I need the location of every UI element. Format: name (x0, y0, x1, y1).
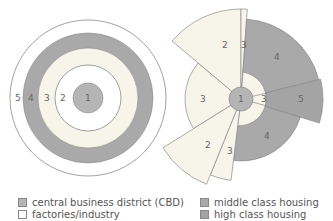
zone-1-label: 1 (85, 93, 91, 103)
sector-5-label: 5 (298, 94, 304, 104)
legend-swatch-middle-class (200, 198, 209, 207)
legend-label-high-class: high class housing (214, 209, 306, 220)
zone-5-label: 5 (15, 93, 21, 103)
zone-3-label: 3 (44, 93, 50, 103)
legend-swatch-industry (18, 210, 27, 219)
legend-label-cbd: central business district (CBD) (32, 197, 184, 208)
legend-label-industry: factories/industry (32, 209, 120, 220)
sector-1-label: 1 (238, 94, 244, 104)
legend-item-high-class: high class housing (200, 208, 306, 220)
zone-4-label: 4 (28, 93, 34, 103)
legend-item-industry: factories/industry (18, 208, 120, 220)
zone-2-label: 2 (60, 93, 66, 103)
sector-3-top-strip-label: 3 (241, 40, 247, 50)
legend-item-middle-class: middle class housing (200, 196, 319, 208)
sector-4-top-right-label: 4 (274, 52, 280, 62)
legend-item-cbd: central business district (CBD) (18, 196, 184, 208)
sector-3-left-label: 3 (200, 94, 206, 104)
sector-3-bottom-label: 3 (227, 146, 233, 156)
sector-4-bottom-right-label: 4 (264, 131, 270, 141)
legend-swatch-cbd (18, 198, 27, 207)
legend-swatch-high-class (200, 210, 209, 219)
legend-label-middle-class: middle class housing (214, 197, 319, 208)
sector-3-inner-right-label: 3 (261, 94, 267, 104)
legend: central business district (CBD) factorie… (0, 196, 333, 221)
concentric-zone-model: 5 4 3 2 1 (10, 20, 166, 176)
sector-2-top-left-label: 2 (222, 40, 228, 50)
urban-models-diagram: 5 4 3 2 1 1 2 3 4 3 5 3 4 2 3 (0, 0, 333, 196)
sector-2-bottom-left-label: 2 (205, 140, 211, 150)
